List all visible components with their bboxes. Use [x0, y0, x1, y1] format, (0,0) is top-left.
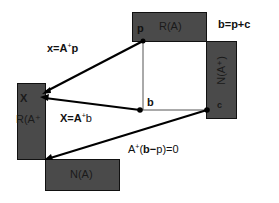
b-to-x-arrow	[45, 98, 140, 110]
null-a-label: N(A)	[70, 168, 93, 180]
point-b	[137, 107, 143, 113]
arrowhead-icon	[42, 87, 51, 94]
x-from-p-equation: x=A+p	[47, 42, 78, 54]
point-x-label: X	[20, 92, 27, 104]
orthogonality-equation: A+(b−p)=0	[128, 143, 179, 155]
range-a-plus-label: R(A⁺	[16, 113, 41, 126]
subspace-diagram: p R(A) N(A⁺) c X R(A⁺ N(A) b b=p+c x=A+p…	[0, 0, 279, 203]
point-p-label: p	[137, 22, 144, 34]
point-b-label: b	[147, 96, 154, 108]
point-c-label: c	[217, 100, 222, 110]
null-a-plus-label: N(A⁺)	[215, 53, 228, 89]
point-p	[141, 39, 146, 44]
arrowhead-icon	[44, 154, 53, 160]
x-from-b-equation: X=A+b	[60, 112, 92, 124]
point-c	[204, 107, 210, 113]
arrowhead-icon	[40, 94, 49, 101]
range-a-label: R(A)	[159, 20, 182, 32]
b-decomposition-equation: b=p+c	[218, 18, 250, 30]
